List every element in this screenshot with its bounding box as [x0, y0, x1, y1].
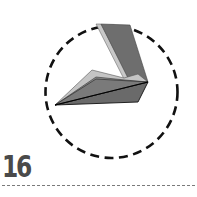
step-number: 16 [2, 152, 30, 182]
step-divider [2, 185, 195, 186]
